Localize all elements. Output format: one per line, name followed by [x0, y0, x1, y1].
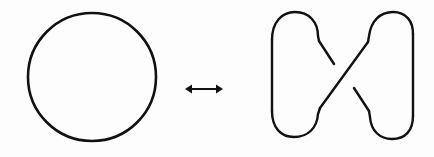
circle-shape: [28, 13, 156, 141]
arrow-head-left: [185, 85, 192, 94]
knot-top-right-lobe: [368, 12, 413, 42]
double-arrow-icon: [185, 85, 223, 94]
one-crossing-knot: [272, 12, 413, 139]
knot-under-strand-upper: [319, 41, 334, 64]
knot-equivalence-diagram: [0, 0, 434, 157]
knot-bottom-left-lobe: [272, 108, 320, 137]
knot-bottom-right-lobe: [369, 111, 413, 139]
circle-unknot: [28, 13, 156, 141]
diagram-canvas: [0, 0, 434, 157]
knot-top-left-lobe: [272, 12, 319, 41]
knot-under-strand-lower: [354, 88, 369, 111]
arrow-head-right: [216, 85, 223, 94]
